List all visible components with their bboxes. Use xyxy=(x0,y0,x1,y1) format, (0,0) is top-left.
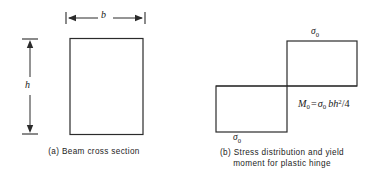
caption-panel-b-line1: (b) Stress distribution and yield xyxy=(188,147,376,158)
caption-panel-a: (a) Beam cross section xyxy=(0,147,188,156)
stress-label-bottom: σ0 xyxy=(233,132,241,144)
b-dimension-left-arrowhead xyxy=(68,15,76,21)
formula-equals-sign: = xyxy=(310,98,318,109)
yield-moment-formula: M0=σ0 bh2/4 xyxy=(298,98,350,110)
h-dimension-top-arrowhead xyxy=(27,40,33,48)
caption-panel-b: (b) Stress distribution and yield moment… xyxy=(188,147,376,169)
stress-label-top: σ0 xyxy=(311,26,319,38)
stress-label-bottom-subscript: 0 xyxy=(238,137,241,144)
figure-root: b h σ0 σ0 M0=σ0 bh2/4 (a) Beam cross sec… xyxy=(0,0,376,183)
caption-panel-b-line2: moment for plastic hinge xyxy=(188,158,376,169)
stress-block-upper xyxy=(287,41,357,86)
h-dimension-bottom-arrowhead xyxy=(27,125,33,133)
dimension-label-b: b xyxy=(101,9,106,20)
beam-cross-section-rectangle xyxy=(70,39,143,135)
stress-block-lower xyxy=(216,86,287,132)
b-dimension-right-arrowhead xyxy=(135,15,143,21)
formula-sigma-subscript: 0 xyxy=(323,103,326,110)
formula-denominator: 4 xyxy=(345,98,350,109)
stress-label-top-subscript: 0 xyxy=(316,31,319,38)
formula-lhs-symbol: M xyxy=(298,98,307,109)
dimension-label-h: h xyxy=(25,79,30,90)
